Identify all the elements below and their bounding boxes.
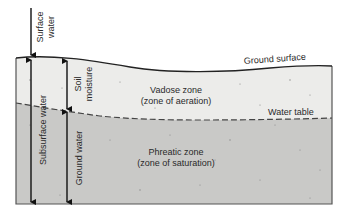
phreatic-zone-label-2: (zone of saturation) (137, 158, 215, 168)
vadose-zone-label-1: Vadose zone (150, 85, 202, 95)
subsurface-water-label: Subsurface water (38, 95, 48, 165)
water-table-label: Water table (268, 107, 314, 117)
surface-water-label-2: water (46, 16, 56, 39)
phreatic-zone-label-1: Phreatic zone (148, 147, 203, 157)
groundwater-zones-diagram: Surface water Soil moisture Subsurface w… (0, 0, 342, 217)
soil-moisture-label-2: moisture (84, 67, 94, 102)
soil-moisture-label-1: Soil (73, 76, 83, 91)
ground-water-label: Ground water (74, 131, 84, 186)
vadose-zone-label-2: (zone of aeration) (141, 96, 212, 106)
ground-surface-label: Ground surface (243, 52, 306, 66)
surface-water-label-1: Surface (35, 11, 45, 42)
